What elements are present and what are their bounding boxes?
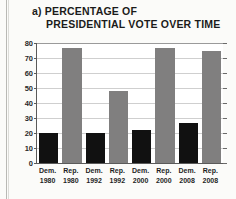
x-axis-label-dem-1992: Dem.1992	[83, 166, 106, 185]
x-axis-label-year: 2008	[199, 176, 222, 186]
x-axis-label-year: 2000	[129, 176, 152, 186]
x-axis-label-party: Rep.	[152, 166, 175, 176]
y-axis-tick-label: 40	[7, 99, 33, 108]
bar-rep-1980	[62, 48, 81, 164]
bar-dem-2008	[179, 123, 198, 164]
x-axis-label-year: 2000	[152, 176, 175, 186]
y-axis-tick-label: 20	[7, 129, 33, 138]
bar-rep-2000	[155, 48, 174, 164]
y-axis-tick-mark	[34, 58, 37, 59]
x-axis-label-dem-1980: Dem.1980	[36, 166, 59, 185]
y-axis-tick-mark-right	[223, 73, 227, 74]
y-axis-tick-label: 70	[7, 54, 33, 63]
y-axis-tick-mark	[34, 118, 37, 119]
y-axis-tick-label: 0	[7, 159, 33, 168]
x-axis-label-year: 2008	[176, 176, 199, 186]
y-axis-tick-mark-right	[223, 148, 227, 149]
plot-area: 01020304050607080	[36, 43, 223, 164]
x-axis-label-year: 1980	[59, 176, 82, 186]
x-axis-label-party: Dem.	[176, 166, 199, 176]
x-axis-label-party: Rep.	[59, 166, 82, 176]
y-axis-tick-label: 50	[7, 84, 33, 93]
x-axis-label-year: 1980	[36, 176, 59, 186]
y-axis-tick-label: 30	[7, 114, 33, 123]
bar-dem-1992	[86, 133, 105, 163]
x-axis-label-rep-2008: Rep.2008	[199, 166, 222, 185]
x-axis-label-year: 1992	[106, 176, 129, 186]
bar-series	[37, 43, 223, 163]
y-axis-tick-mark	[34, 103, 37, 104]
x-axis-label-party: Dem.	[36, 166, 59, 176]
x-axis-label-party: Dem.	[129, 166, 152, 176]
chart-figure: a) PERCENTAGE OF PRESIDENTIAL VOTE OVER …	[0, 0, 236, 199]
y-axis-tick-mark	[34, 88, 37, 89]
y-axis-tick-label: 10	[7, 144, 33, 153]
y-axis-tick-label: 60	[7, 69, 33, 78]
y-axis-tick-mark-right	[223, 43, 227, 44]
x-axis-labels: Dem.1980Rep.1980Dem.1992Rep.1992Dem.2000…	[36, 166, 222, 194]
bar-dem-2000	[132, 130, 151, 163]
x-axis-label-dem-2008: Dem.2008	[176, 166, 199, 185]
chart-title: a) PERCENTAGE OF PRESIDENTIAL VOTE OVER …	[32, 5, 232, 30]
bar-rep-1992	[109, 91, 128, 163]
y-axis-tick-mark	[34, 133, 37, 134]
chart-title-line-2: PRESIDENTIAL VOTE OVER TIME	[32, 18, 232, 31]
y-axis-tick-mark-right	[223, 103, 227, 104]
y-axis-tick-mark-right	[223, 118, 227, 119]
y-axis-tick-mark	[34, 163, 37, 164]
x-axis-label-rep-2000: Rep.2000	[152, 166, 175, 185]
x-axis-label-rep-1980: Rep.1980	[59, 166, 82, 185]
y-axis-tick-mark-right	[223, 58, 227, 59]
y-axis-tick-mark	[34, 43, 37, 44]
x-axis-label-party: Rep.	[106, 166, 129, 176]
x-axis-label-rep-1992: Rep.1992	[106, 166, 129, 185]
y-axis-tick-label: 80	[7, 39, 33, 48]
chart-title-line-1: a) PERCENTAGE OF	[32, 5, 232, 18]
y-axis-tick-mark-right	[223, 88, 227, 89]
y-axis-tick-mark	[34, 73, 37, 74]
x-axis-label-year: 1992	[83, 176, 106, 186]
x-axis-label-party: Rep.	[199, 166, 222, 176]
y-axis-tick-mark-right	[223, 163, 227, 164]
bar-rep-2008	[202, 51, 221, 164]
y-axis-tick-mark-right	[223, 133, 227, 134]
x-axis-label-dem-2000: Dem.2000	[129, 166, 152, 185]
x-axis-label-party: Dem.	[83, 166, 106, 176]
y-axis-tick-mark	[34, 148, 37, 149]
bar-dem-1980	[39, 133, 58, 163]
